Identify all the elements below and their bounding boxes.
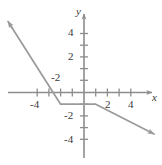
coordinate-plane (0, 0, 162, 165)
y-tick-label-2: 2 (68, 51, 74, 62)
x-tick-label-neg4: -4 (30, 99, 39, 110)
y-tick-label-4: 4 (68, 27, 74, 38)
x-tick-label-neg2: -2 (51, 72, 60, 83)
x-axis (8, 89, 152, 97)
y-tick-label-neg2: -2 (64, 110, 73, 121)
x-tick-label-4: 4 (128, 99, 134, 110)
function-curve (8, 21, 154, 134)
x-tick-label-2: 2 (105, 99, 111, 110)
y-axis-label: y (76, 6, 81, 17)
x-axis-label: x (152, 92, 157, 103)
y-axis (80, 14, 88, 158)
y-tick-label-neg4: -4 (64, 134, 73, 145)
graph-figure: y x -4 -2 2 4 4 2 -2 -4 (0, 0, 162, 165)
